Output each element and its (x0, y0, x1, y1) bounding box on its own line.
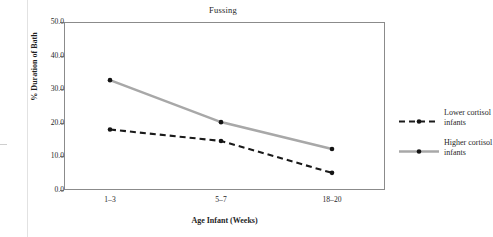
y-axis-tick-mark (60, 156, 64, 157)
y-axis-tick-mark (60, 22, 64, 23)
chart-legend: Lower cortisol infantsHigher cortisol in… (399, 108, 493, 168)
x-axis-tick-label: 5–7 (186, 195, 256, 204)
legend-label: Lower cortisol infants (444, 108, 493, 127)
y-axis-tick-mark (60, 123, 64, 124)
y-axis-label: % Duration of Bath (30, 11, 39, 123)
y-axis-tick-label: 10.0 (26, 151, 64, 161)
x-axis-tick-label: 1–3 (75, 195, 145, 204)
x-axis-label: Age Infant (Weeks) (64, 216, 385, 225)
y-axis-tick-mark (60, 190, 64, 191)
y-axis-tick-label: 50.0 (26, 17, 64, 27)
fussing-line-chart: Fussing % Duration of Bath 0.010.020.030… (0, 0, 493, 237)
x-axis-tick-label: 18–20 (297, 195, 367, 204)
legend-line-swatch (399, 112, 439, 121)
y-axis-tick-label: 30.0 (26, 84, 64, 94)
y-axis-tick-mark (60, 89, 64, 90)
y-axis-tick-label: 40.0 (26, 51, 64, 61)
plot-area-frame (64, 22, 385, 190)
y-axis-tick-label: 0.0 (26, 185, 64, 195)
legend-entry: Lower cortisol infants (399, 108, 493, 127)
legend-entry: Higher cortisol infants (399, 138, 493, 157)
legend-line-swatch (399, 142, 439, 151)
legend-label: Higher cortisol infants (444, 138, 493, 157)
chart-title: Fussing (60, 5, 386, 15)
y-axis-tick-label: 20.0 (26, 118, 64, 128)
y-axis-tick-mark (60, 56, 64, 57)
